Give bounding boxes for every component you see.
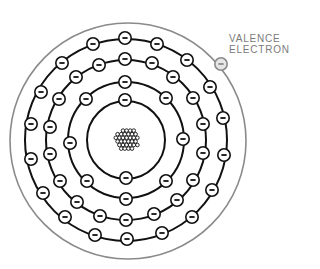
electron bbox=[59, 211, 71, 223]
electron bbox=[181, 54, 193, 66]
electron bbox=[151, 38, 163, 50]
electron bbox=[87, 38, 99, 50]
electron bbox=[44, 121, 56, 133]
electron bbox=[53, 93, 65, 105]
electron bbox=[120, 214, 132, 226]
electron bbox=[218, 149, 230, 161]
electron bbox=[206, 184, 218, 196]
electron bbox=[119, 53, 131, 65]
valence-electron-circle bbox=[215, 58, 227, 70]
electron bbox=[64, 137, 76, 149]
electron bbox=[89, 229, 101, 241]
electron bbox=[146, 57, 158, 69]
electron bbox=[35, 86, 47, 98]
label-line-2: ELECTRON bbox=[229, 44, 290, 55]
electron bbox=[187, 92, 199, 104]
electron bbox=[56, 57, 68, 69]
electron bbox=[119, 32, 131, 44]
electron bbox=[70, 71, 82, 83]
label-line-1: VALENCE bbox=[229, 33, 290, 44]
electron bbox=[167, 71, 179, 83]
electron bbox=[121, 233, 133, 245]
electron bbox=[120, 193, 132, 205]
electron bbox=[93, 59, 105, 71]
valence-electron bbox=[215, 58, 227, 70]
electron bbox=[156, 227, 168, 239]
electron bbox=[94, 210, 106, 222]
electron bbox=[37, 187, 49, 199]
electron bbox=[160, 175, 172, 187]
electron bbox=[25, 118, 37, 130]
electron bbox=[119, 94, 131, 106]
electron bbox=[217, 112, 229, 124]
electron bbox=[148, 208, 160, 220]
electron bbox=[186, 211, 198, 223]
electron bbox=[171, 194, 183, 206]
electron bbox=[197, 147, 209, 159]
nucleus bbox=[114, 129, 139, 151]
electron bbox=[119, 76, 131, 88]
electron bbox=[44, 148, 56, 160]
electron bbox=[71, 196, 83, 208]
electron bbox=[197, 118, 209, 130]
electron bbox=[80, 93, 92, 105]
electron bbox=[160, 92, 172, 104]
electron bbox=[120, 172, 132, 184]
electron bbox=[81, 175, 93, 187]
electron bbox=[25, 153, 37, 165]
electron bbox=[187, 174, 199, 186]
electron bbox=[54, 175, 66, 187]
electron bbox=[177, 133, 189, 145]
valence-electron-label: VALENCE ELECTRON bbox=[229, 33, 290, 55]
electron bbox=[204, 81, 216, 93]
